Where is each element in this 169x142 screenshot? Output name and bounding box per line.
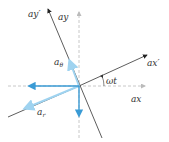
acceleration-diagram: ax ay ax′ ay′ ωt aθ ar [0,0,169,142]
a-theta-label: aθ [54,57,63,68]
omega-t-label: ωt [106,76,117,86]
ay-label: ay [58,12,69,22]
ax-prime-label: ax′ [147,58,160,68]
ax-label: ax [131,94,141,104]
a-r-label: ar [37,107,46,118]
a-r-subscript: r [42,111,46,118]
a-theta-vector [70,62,79,86]
arc-arrowhead-icon [100,75,103,79]
a-r-vector [26,86,79,108]
a-theta-subscript: θ [59,61,63,68]
ay-prime-label: ay′ [28,9,41,19]
